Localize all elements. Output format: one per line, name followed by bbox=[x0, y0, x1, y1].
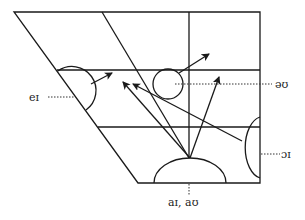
ei-region bbox=[58, 66, 96, 110]
label-oi: ɔɪ bbox=[281, 148, 291, 161]
label-ai-au: aɪ, aʊ bbox=[168, 196, 199, 209]
arrow-ei bbox=[91, 73, 112, 84]
label-ei: eɪ bbox=[29, 91, 40, 104]
arrow-au bbox=[190, 77, 219, 158]
label-schwa-u: əʊ bbox=[275, 78, 289, 91]
vowel-quadrilateral-diagram: eɪ əʊ ɔɪ aɪ, aʊ bbox=[0, 0, 305, 220]
ai-au-region bbox=[154, 158, 226, 183]
oi-region bbox=[245, 117, 260, 178]
